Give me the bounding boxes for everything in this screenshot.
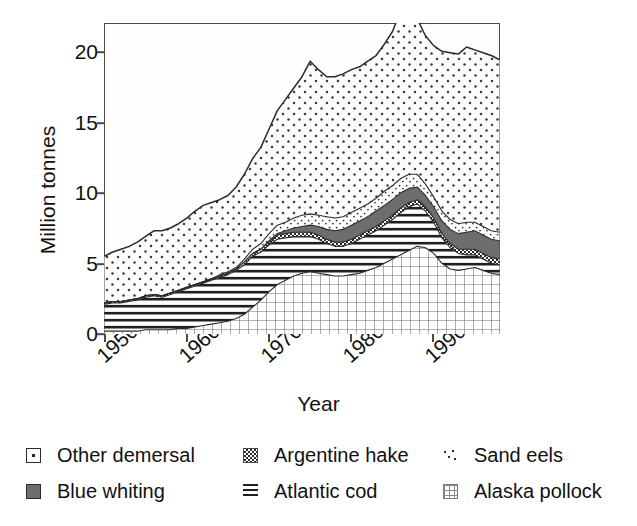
stacked-area-chart: [104, 23, 500, 334]
legend-swatch-alaska-pollock-icon: [443, 484, 458, 499]
legend-item-other-demersal[interactable]: Other demersal: [26, 445, 195, 465]
legend-swatch-other-demersal-icon: [26, 448, 41, 463]
y-tick-mark-15: [97, 122, 104, 124]
y-tick-mark-20: [97, 51, 104, 53]
y-tick-mark-0: [97, 333, 104, 335]
x-axis-label: Year: [0, 392, 637, 416]
y-tick-mark-10: [97, 192, 104, 194]
chart-legend: Other demersal Blue whiting Argentine ha…: [0, 443, 637, 515]
plot-area: [104, 23, 500, 334]
legend-item-sand-eels[interactable]: Sand eels: [443, 445, 563, 465]
legend-swatch-argentine-hake-icon: [243, 448, 258, 463]
legend-label-blue-whiting: Blue whiting: [57, 481, 165, 501]
chart-figure: Million tonnes 0 5 10 15 20 1950 1960 19…: [0, 0, 637, 526]
legend-label-alaska-pollock: Alaska pollock: [474, 481, 602, 501]
legend-item-atlantic-cod[interactable]: Atlantic cod: [243, 481, 377, 501]
legend-label-atlantic-cod: Atlantic cod: [274, 481, 377, 501]
legend-swatch-sand-eels-icon: [443, 448, 458, 463]
legend-item-argentine-hake[interactable]: Argentine hake: [243, 445, 409, 465]
legend-item-blue-whiting[interactable]: Blue whiting: [26, 481, 165, 501]
y-tick-mark-5: [97, 263, 104, 265]
legend-swatch-atlantic-cod-icon: [243, 484, 258, 499]
legend-label-argentine-hake: Argentine hake: [274, 445, 409, 465]
legend-label-sand-eels: Sand eels: [474, 445, 563, 465]
legend-label-other-demersal: Other demersal: [57, 445, 195, 465]
y-tick-label-0: 0: [38, 322, 98, 346]
legend-swatch-blue-whiting-icon: [26, 484, 41, 499]
y-tick-label-15: 15: [38, 111, 98, 135]
legend-item-alaska-pollock[interactable]: Alaska pollock: [443, 481, 602, 501]
y-tick-label-5: 5: [38, 252, 98, 276]
y-tick-label-10: 10: [38, 181, 98, 205]
y-tick-label-20: 20: [38, 40, 98, 64]
